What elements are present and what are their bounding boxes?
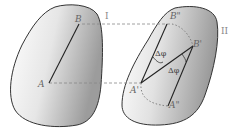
label-delta-phi-top: Δφ — [155, 49, 167, 58]
label-A: A — [37, 79, 45, 89]
body-left — [11, 5, 103, 127]
label-delta-phi-bottom: Δφ — [168, 66, 180, 75]
label-B2: B" — [169, 11, 181, 21]
label-A2: A" — [168, 100, 180, 110]
diagram-canvas: B A I B" B' A' A" II Δφ Δφ — [0, 0, 235, 133]
label-A1: A' — [129, 85, 139, 95]
label-B: B — [74, 14, 82, 24]
label-body-I: I — [105, 11, 109, 21]
label-body-II: II — [221, 26, 229, 36]
label-B1: B' — [192, 39, 202, 49]
